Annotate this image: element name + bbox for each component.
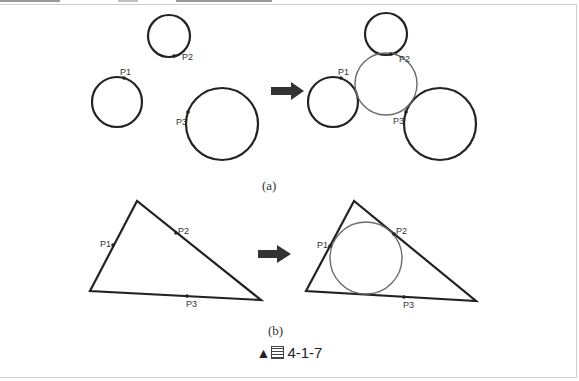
label-p1: P1 xyxy=(317,240,328,250)
label-p1: P1 xyxy=(120,67,131,77)
label-p3: P3 xyxy=(186,299,197,309)
circle-p3 xyxy=(186,88,258,160)
caption-a: (a) xyxy=(262,178,276,194)
point-p3 xyxy=(402,295,406,299)
triangle xyxy=(90,201,261,300)
label-p2: P2 xyxy=(396,226,407,236)
point-p3 xyxy=(404,110,408,114)
panel-a-before: P1 P2 P3 xyxy=(92,15,258,160)
figure-title: ▲4-1-7 xyxy=(0,344,579,361)
circle-p1 xyxy=(92,77,142,127)
label-p3: P3 xyxy=(403,300,414,310)
label-p3: P3 xyxy=(176,117,187,127)
label-p2: P2 xyxy=(399,54,410,64)
incircle xyxy=(330,222,402,294)
label-p2: P2 xyxy=(182,52,193,62)
panel-b-before: P1 P2 P3 xyxy=(90,201,261,309)
point-p1 xyxy=(111,243,115,247)
label-p3: P3 xyxy=(393,116,404,126)
figure-glyph-icon xyxy=(271,346,284,359)
circle-p1 xyxy=(308,77,358,127)
panel-b-after: P1 P2 P3 xyxy=(306,201,476,310)
panel-a-after: P1 P2 P3 xyxy=(308,13,476,160)
point-p3 xyxy=(185,294,189,298)
circle-p2 xyxy=(148,15,190,57)
label-p2: P2 xyxy=(178,226,189,236)
point-p2 xyxy=(172,54,176,58)
right-arrow-icon xyxy=(271,82,304,100)
triangle-marker-icon: ▲ xyxy=(257,345,271,361)
figure-number: 4-1-7 xyxy=(287,344,322,361)
point-p1 xyxy=(328,244,332,248)
caption-b: (b) xyxy=(268,323,283,339)
triangle xyxy=(306,201,476,301)
label-p1: P1 xyxy=(100,239,111,249)
figure-diagram: P1 P2 P3 P1 P2 P3 P1 P2 P3 xyxy=(0,0,579,381)
right-arrow-icon xyxy=(258,245,291,263)
circle-p2 xyxy=(365,13,407,55)
label-p1: P1 xyxy=(338,67,349,77)
circle-p3 xyxy=(404,88,476,160)
point-p3 xyxy=(186,110,190,114)
point-p2 xyxy=(389,52,393,56)
